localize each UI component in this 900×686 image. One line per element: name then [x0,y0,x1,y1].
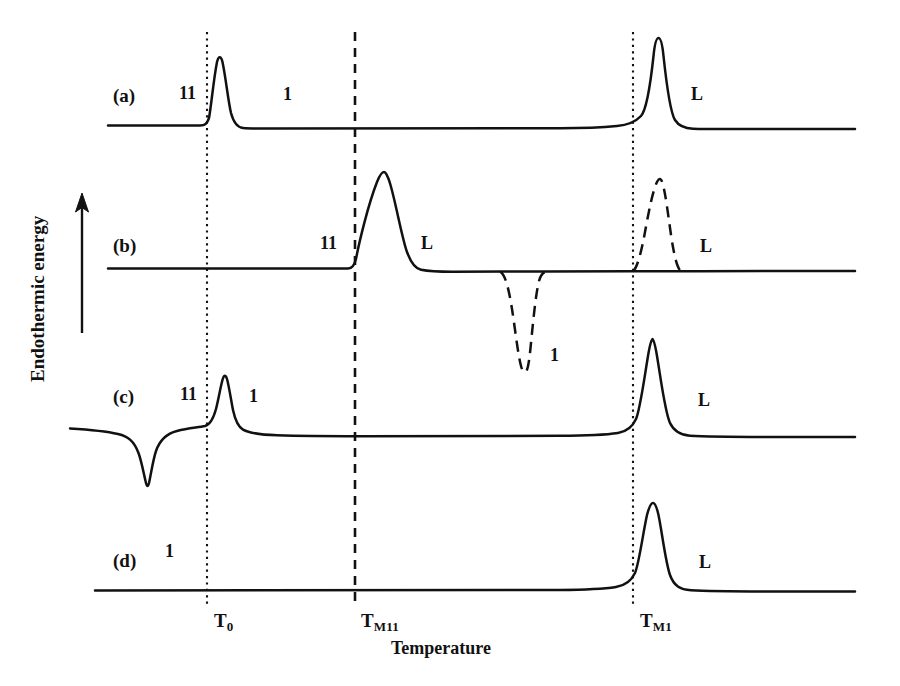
dsc-trace-b-curve [108,172,855,272]
trace-tag-c: (c) [113,387,134,406]
reference-lines [207,32,633,608]
dsc-trace-b-dashed-endotherm [633,179,684,271]
axis-tick-tm11-sub: M11 [374,619,399,634]
y-axis-title: Endothermic energy [28,216,47,382]
dsc-thermogram-figure: (a) 11 1 L (b) 11 L 1 L (c) 11 1 L (d) 1… [0,0,900,686]
dsc-trace-c [70,339,855,486]
phase-label-a-right: L [691,85,703,103]
phase-label-b-trough: 1 [550,346,559,364]
trace-tag-a: (a) [113,86,135,105]
trace-tag-d: (d) [113,551,136,570]
phase-label-c-mid: 1 [249,387,258,405]
phase-label-d-left: 1 [165,542,174,560]
axis-tick-t0-base: T [214,610,227,631]
axis-tick-tm1-sub: M1 [653,619,672,634]
axis-tick-t0-sub: 0 [227,619,234,634]
axis-tick-tm11-base: T [361,610,374,631]
dsc-trace-b-dashed-exotherm [500,272,548,373]
phase-label-a-mid: 1 [283,85,292,103]
dsc-trace-b [108,172,855,372]
dsc-trace-d-curve [95,503,855,591]
endothermic-arrow-icon [76,193,89,333]
dsc-trace-d [95,503,855,591]
axis-tick-tm1-base: T [640,610,653,631]
x-axis-title: Temperature [391,639,491,657]
trace-tag-b: (b) [113,236,136,255]
phase-label-d-right: L [699,553,711,571]
phase-label-b-mid: L [421,234,433,252]
axis-tick-label-tm1: TM1 [640,611,672,633]
dsc-trace-a-curve [108,38,855,129]
axis-tick-label-t0: T0 [214,611,233,633]
phase-label-b-right: L [700,237,712,255]
phase-label-c-right: L [698,391,710,409]
dsc-trace-c-curve [70,339,855,486]
dsc-trace-a [108,38,855,129]
axis-tick-label-tm11: TM11 [361,611,399,633]
phase-label-b-left: 11 [320,234,337,252]
phase-label-a-left: 11 [179,84,196,102]
phase-label-c-left: 11 [180,385,197,403]
